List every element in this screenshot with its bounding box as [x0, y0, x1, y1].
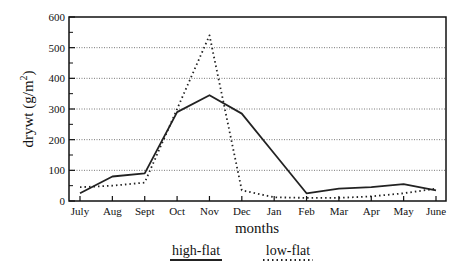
y-tick-label: 500: [49, 42, 66, 54]
data-series: [80, 35, 436, 198]
x-tick-label: Feb: [298, 205, 315, 217]
x-tick-label: Dec: [233, 205, 251, 217]
legend-item-low-flat: low-flat: [263, 243, 313, 260]
y-axis: 0100200300400500600: [49, 11, 76, 207]
x-tick-label: Mar: [330, 205, 349, 217]
legend-item-high-flat: high-flat: [170, 243, 222, 260]
series-line-high-flat: [80, 95, 436, 193]
x-tick-label: Jan: [267, 205, 282, 217]
x-tick-label: Nov: [200, 205, 219, 217]
y-tick-label: 100: [49, 164, 66, 176]
y-tick-label: 600: [49, 11, 66, 23]
x-tick-label: Sept: [135, 205, 155, 217]
x-axis: JulyAugSeptOctNovDecJanFebMarAprMayJune: [71, 196, 446, 217]
x-tick-label: July: [71, 205, 90, 217]
gridlines: [69, 48, 446, 171]
x-axis-title: months: [235, 220, 279, 236]
y-axis-title: drywt (g/m2): [18, 70, 37, 147]
y-tick-label: 0: [60, 195, 66, 207]
series-line-low-flat: [80, 35, 436, 198]
y-tick-label: 400: [49, 72, 66, 84]
y-tick-label: 300: [49, 103, 66, 115]
x-tick-label: Oct: [169, 205, 185, 217]
legend-label-low-flat: low-flat: [266, 243, 310, 258]
x-tick-label: Apr: [363, 205, 380, 217]
legend: high-flat low-flat: [170, 243, 313, 260]
x-tick-label: June: [426, 205, 446, 217]
legend-label-high-flat: high-flat: [172, 243, 220, 258]
line-chart: 0100200300400500600 JulyAugSeptOctNovDec…: [0, 0, 464, 274]
x-tick-label: Aug: [103, 205, 122, 217]
y-tick-label: 200: [49, 134, 66, 146]
x-tick-label: May: [394, 205, 415, 217]
